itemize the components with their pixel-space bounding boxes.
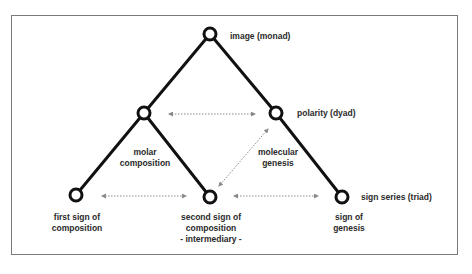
label-line: genesis: [258, 158, 298, 169]
label-line: first sign of: [52, 212, 103, 223]
label-sign-series-triad: sign series (triad): [361, 192, 432, 203]
node-image: [204, 28, 216, 40]
diagram-canvas: image (monad) polarity (dyad) sign serie…: [0, 0, 472, 274]
label-line: composition: [52, 223, 103, 234]
label-molecular-genesis: molecular genesis: [258, 147, 298, 169]
label-line: sign of: [333, 212, 365, 223]
node-second-sign: [204, 191, 216, 203]
node-polarity: [270, 107, 282, 119]
label-line: molecular: [258, 147, 298, 158]
label-line: - intermediary -: [180, 234, 241, 245]
label-molar-composition: molar composition: [120, 147, 171, 169]
label-polarity-dyad: polarity (dyad): [297, 108, 356, 119]
edge-image-to-polarity: [210, 34, 276, 113]
label-image-monad: image (monad): [230, 31, 290, 42]
label-second-sign-of-composition: second sign of composition - intermediar…: [180, 212, 241, 245]
label-first-sign-of-composition: first sign of composition: [52, 212, 103, 234]
label-line: second sign of: [180, 212, 241, 223]
label-line: composition: [120, 158, 171, 169]
label-sign-of-genesis: sign of genesis: [333, 212, 365, 234]
label-line: composition: [180, 223, 241, 234]
node-left-mid: [138, 107, 150, 119]
edge-image-to-left: [144, 34, 210, 113]
node-sign-of-genesis: [336, 191, 348, 203]
node-first-sign: [70, 189, 82, 201]
label-line: genesis: [333, 223, 365, 234]
label-line: molar: [120, 147, 171, 158]
